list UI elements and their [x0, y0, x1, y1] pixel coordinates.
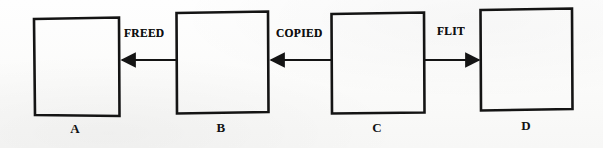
diagram-vector-layer [0, 0, 603, 148]
diagram-canvas: FREED COPIED FLIT A B C D [0, 0, 603, 148]
edge-label-flit: FLIT [437, 26, 465, 38]
node-box-a[interactable] [34, 18, 120, 117]
node-caption-a: A [65, 122, 85, 135]
edge-label-freed: FREED [124, 28, 164, 40]
node-box-b-outline [177, 12, 269, 114]
node-box-d-outline [481, 9, 573, 111]
edge-label-copied: COPIED [276, 28, 323, 40]
node-caption-d: D [516, 119, 536, 132]
node-box-c[interactable] [332, 13, 425, 114]
node-box-a-outline [34, 18, 120, 117]
node-caption-b: B [211, 121, 231, 134]
node-rectangles [34, 9, 573, 117]
node-box-b[interactable] [177, 12, 269, 114]
node-box-c-outline [332, 13, 425, 114]
node-caption-c: C [367, 121, 387, 134]
node-box-d[interactable] [481, 9, 573, 111]
